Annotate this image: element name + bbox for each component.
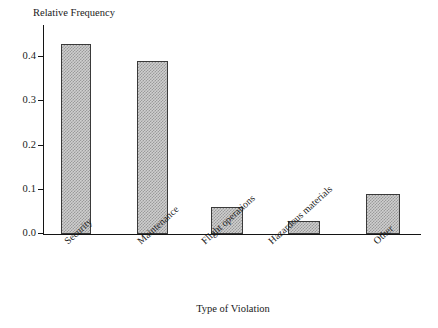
y-tick-label: 0.2 (0, 140, 36, 151)
x-category-label-flight-operations: Flight operations (199, 192, 257, 246)
y-tick-mark (38, 233, 43, 234)
y-tick-mark (38, 189, 43, 190)
relative-frequency-bar-chart: Relative Frequency 0.00.10.20.30.4 Secur… (0, 0, 438, 328)
x-axis-title-text: Type of Violation (196, 303, 270, 314)
y-axis-line (43, 25, 44, 235)
x-axis-title: Type of Violation (0, 303, 438, 314)
y-tick-label: 0.3 (0, 95, 36, 106)
y-tick-mark (38, 56, 43, 57)
y-tick-label: 0.0 (0, 228, 36, 239)
y-tick-mark (38, 145, 43, 146)
y-tick-label: 0.1 (0, 184, 36, 195)
y-axis-title: Relative Frequency (33, 7, 115, 19)
plot-area: Relative Frequency 0.00.10.20.30.4 Secur… (0, 0, 438, 328)
bar-maintenance (137, 61, 168, 234)
y-tick-mark (38, 100, 43, 101)
y-tick-label: 0.4 (0, 51, 36, 62)
x-category-label-hazardous-materials: Hazardous materials (266, 183, 334, 246)
bar-security (61, 44, 91, 234)
